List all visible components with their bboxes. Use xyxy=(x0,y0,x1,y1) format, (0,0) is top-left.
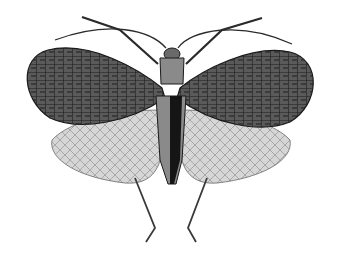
antennae xyxy=(55,29,292,48)
thorax xyxy=(160,58,184,84)
insect-engraving xyxy=(0,0,340,263)
insect-illustration xyxy=(0,0,340,263)
body xyxy=(156,48,186,184)
hind-legs xyxy=(135,178,207,242)
